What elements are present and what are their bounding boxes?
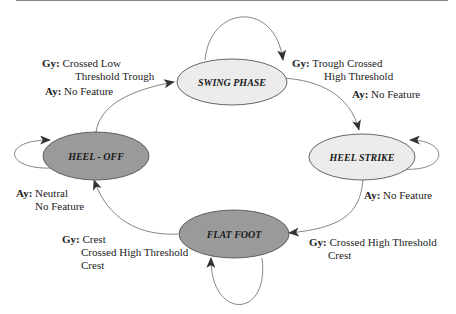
- svg-text:HEEL - OFF: HEEL - OFF: [67, 151, 124, 162]
- edge-flatfoot-to-heeloff: [94, 180, 178, 234]
- self-loop-flatfoot: [211, 258, 263, 305]
- label-flatfoot-to-heeloff-gy: Gy: Crest Crossed High Threshold Crest: [62, 233, 188, 272]
- svg-text:SWING PHASE: SWING PHASE: [198, 77, 266, 88]
- state-heel-strike: HEEL STRIKE: [309, 134, 415, 180]
- label-swing-to-heelstrike-ay: Ay: No Feature: [352, 88, 420, 101]
- svg-text:FLAT FOOT: FLAT FOOT: [206, 229, 263, 240]
- label-heeloff-to-swing-gy: Gy: Crossed Low Threshold Trough: [42, 57, 154, 83]
- state-flat-foot: FLAT FOOT: [179, 210, 289, 258]
- label-heelstrike-to-flatfoot-gy: Gy: Crossed High Threshold Crest: [309, 236, 437, 262]
- label-flatfoot-to-heeloff-ay: Ay: Neutral No Feature: [16, 187, 84, 213]
- state-swing-phase: SWING PHASE: [177, 59, 287, 105]
- label-heeloff-to-swing-ay: Ay: No Feature: [45, 85, 113, 98]
- edge-heelstrike-to-flatfoot: [289, 180, 363, 233]
- self-loop-swing: [205, 17, 283, 60]
- label-swing-to-heelstrike-gy: Gy: Trough Crossed High Threshold: [292, 57, 393, 83]
- edge-swing-to-heelstrike: [282, 78, 359, 130]
- label-heelstrike-to-flatfoot-ay: Ay: No Feature: [364, 189, 432, 202]
- state-heel-off: HEEL - OFF: [43, 132, 149, 180]
- svg-text:HEEL STRIKE: HEEL STRIKE: [329, 152, 395, 163]
